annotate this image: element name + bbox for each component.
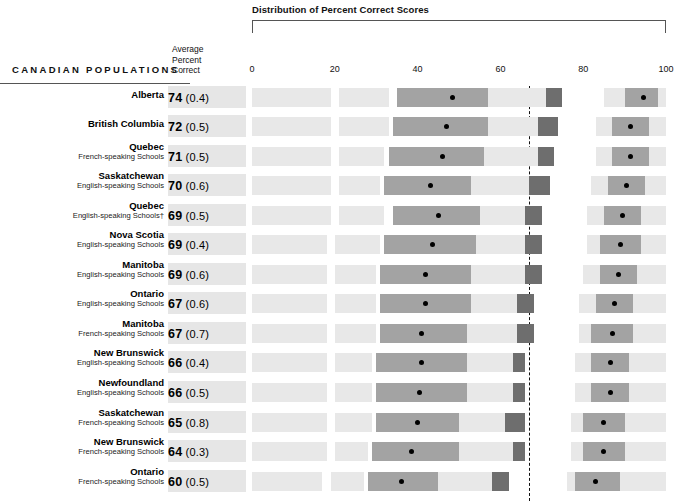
population-subtitle: French-speaking Schools — [2, 152, 164, 161]
percentile-band — [480, 206, 530, 225]
standard-error: (0.5) — [182, 476, 209, 488]
mean-marker-dot — [409, 449, 414, 454]
standard-error: (0.6) — [182, 298, 209, 310]
average-percent-correct: 67 — [168, 327, 182, 341]
population-name: New Brunswick — [2, 347, 164, 358]
percentile-band — [252, 294, 327, 313]
standard-error: (0.5) — [182, 121, 209, 133]
percentile-band — [252, 413, 327, 432]
percentile-band — [335, 235, 381, 254]
row-label: British Columbia — [2, 118, 164, 129]
average-percent-correct: 70 — [168, 179, 182, 193]
percentile-band — [471, 265, 525, 284]
population-subtitle: English-speaking Schools — [2, 240, 164, 249]
mean-marker-dot — [428, 183, 433, 188]
percentile-band — [335, 265, 376, 284]
percentile-band — [335, 324, 376, 343]
row-label: Nova ScotiaEnglish-speaking Schools — [2, 229, 164, 249]
population-subtitle: French-speaking Schools — [2, 447, 164, 456]
average-percent-correct: 60 — [168, 475, 182, 489]
average-percent-correct: 66 — [168, 386, 182, 400]
average-percent-correct: 71 — [168, 150, 182, 164]
row-label: QuebecFrench-speaking Schools — [2, 141, 164, 161]
population-name: Nova Scotia — [2, 229, 164, 240]
row-label: SaskatchewanEnglish-speaking Schools — [2, 170, 164, 190]
confidence-interval-box — [513, 353, 525, 372]
percentile-band — [488, 117, 542, 136]
confidence-interval-box — [517, 294, 534, 313]
population-name: New Brunswick — [2, 436, 164, 447]
population-subtitle: English-speaking Schools — [2, 270, 164, 279]
average-percent-correct: 69 — [168, 268, 182, 282]
row-label: Alberta — [2, 89, 164, 100]
population-subtitle: English-speaking Schools — [2, 299, 164, 308]
mean-marker-dot — [415, 420, 420, 425]
average-percent-correct: 74 — [168, 91, 182, 105]
score-cell: 64 (0.3) — [168, 440, 246, 462]
confidence-interval-box — [546, 88, 563, 107]
upper-percentile-dot — [641, 95, 646, 100]
mean-marker-dot — [430, 242, 435, 247]
confidence-interval-box — [517, 324, 534, 343]
population-name: Saskatchewan — [2, 170, 164, 181]
score-cell: 69 (0.5) — [168, 204, 246, 226]
population-name: Ontario — [2, 288, 164, 299]
population-subtitle: French-speaking Schools — [2, 477, 164, 486]
standard-error: (0.5) — [182, 210, 209, 222]
percentile-band — [335, 413, 372, 432]
percentile-band — [471, 176, 533, 195]
standard-error: (0.4) — [182, 239, 209, 251]
score-cell: 65 (0.8) — [168, 411, 246, 433]
interquartile-box — [389, 147, 484, 166]
population-name: Newfoundland — [2, 377, 164, 388]
percentile-band — [252, 442, 327, 461]
percentile-band — [252, 176, 331, 195]
upper-percentile-dot — [628, 154, 633, 159]
interquartile-box — [372, 442, 459, 461]
row-label: QuebecEnglish-speaking Schools† — [2, 200, 164, 220]
confidence-interval-box — [513, 442, 525, 461]
population-subtitle: French-speaking Schools — [2, 418, 164, 427]
standard-error: (0.4) — [182, 357, 209, 369]
row-label: ManitobaFrench-speaking Schools — [2, 318, 164, 338]
standard-error: (0.5) — [182, 151, 209, 163]
percentile-band — [459, 442, 513, 461]
standard-error: (0.3) — [182, 446, 209, 458]
average-percent-correct: 67 — [168, 297, 182, 311]
score-cell: 71 (0.5) — [168, 145, 246, 167]
row-label: ManitobaEnglish-speaking Schools — [2, 259, 164, 279]
score-cell: 67 (0.6) — [168, 292, 246, 314]
population-subtitle: English-speaking Schools — [2, 388, 164, 397]
average-percent-correct: 66 — [168, 356, 182, 370]
confidence-interval-box — [492, 472, 509, 491]
population-subtitle: French-speaking Schools — [2, 329, 164, 338]
score-cell: 74 (0.4) — [168, 86, 246, 108]
confidence-interval-box — [525, 265, 542, 284]
score-cell: 70 (0.6) — [168, 174, 246, 196]
percentile-band — [471, 294, 521, 313]
percentile-band — [335, 353, 372, 372]
mean-marker-dot — [399, 479, 404, 484]
score-cell: 66 (0.4) — [168, 351, 246, 373]
percentile-band — [339, 176, 380, 195]
confidence-interval-box — [529, 176, 550, 195]
percentile-band — [252, 235, 327, 254]
confidence-interval-box — [525, 206, 542, 225]
percentile-band — [467, 383, 517, 402]
confidence-interval-box — [505, 413, 526, 432]
percentile-band — [252, 353, 327, 372]
population-name: Manitoba — [2, 318, 164, 329]
interquartile-box — [393, 117, 488, 136]
row-label: New BrunswickFrench-speaking Schools — [2, 436, 164, 456]
percentile-band — [476, 235, 526, 254]
percentile-band — [331, 472, 364, 491]
row-label: New BrunswickEnglish-speaking Schools — [2, 347, 164, 367]
percentile-band — [252, 117, 331, 136]
score-cell: 60 (0.5) — [168, 470, 246, 492]
percentile-band — [467, 324, 521, 343]
standard-error: (0.4) — [182, 92, 209, 104]
upper-percentile-dot — [610, 331, 615, 336]
upper-percentile-dot — [616, 272, 621, 277]
score-cell: 69 (0.6) — [168, 263, 246, 285]
percentile-band — [252, 383, 327, 402]
